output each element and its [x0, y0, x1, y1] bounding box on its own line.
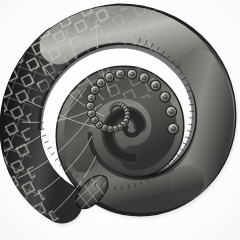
coiled-arm-illustration	[0, 0, 240, 240]
illustration-plate: Coiled cephalopod arm tentacle engraving	[0, 0, 240, 240]
aquatint-grain	[0, 0, 240, 240]
